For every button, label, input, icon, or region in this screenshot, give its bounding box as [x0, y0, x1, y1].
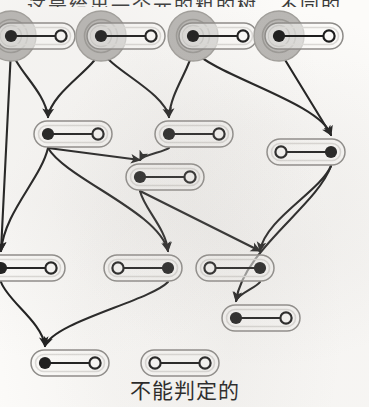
figure-canvas: 这是给出一个元的粗的树。不同的 不能判定的 [0, 0, 369, 407]
unmarked-place-icon [204, 262, 215, 273]
graph-edge [279, 50, 331, 135]
graph-node-top-node-2[interactable] [76, 11, 165, 61]
graph-edge [45, 282, 168, 346]
marked-place-icon [95, 30, 107, 42]
graph-edge [48, 148, 140, 160]
node-layer [0, 11, 345, 376]
figure-caption-top: 这是给出一个元的粗的树。不同的 [0, 0, 369, 7]
marked-place-icon [162, 262, 174, 274]
graph-node-mid-node-3[interactable] [267, 139, 345, 165]
graph-node-top-node-1[interactable] [0, 11, 75, 61]
unmarked-place-icon [213, 128, 224, 139]
marked-place-icon [134, 171, 146, 183]
marked-place-icon [42, 128, 54, 140]
graph-node-low-node-3[interactable] [196, 255, 274, 281]
unmarked-place-icon [45, 262, 56, 273]
unmarked-place-icon [55, 30, 66, 41]
graph-node-low-node-2[interactable] [104, 255, 182, 281]
unmarked-place-icon [89, 357, 100, 368]
unmarked-place-icon [275, 146, 286, 157]
unmarked-place-icon [280, 312, 291, 323]
graph-node-mid-node-1[interactable] [34, 121, 112, 147]
unmarked-place-icon-1 [199, 357, 210, 368]
edge-layer [1, 50, 331, 346]
marked-place-icon [187, 30, 199, 42]
unmarked-place-icon [184, 171, 195, 182]
marked-place-icon [39, 357, 51, 369]
graph-node-mid-node-4[interactable] [126, 164, 204, 190]
graph-node-top-node-4[interactable] [254, 11, 343, 61]
graph-edge [260, 166, 331, 251]
unmarked-place-icon [112, 262, 123, 273]
marked-place-icon [325, 146, 337, 158]
graph-node-low-node-1[interactable] [0, 255, 65, 281]
unmarked-place-icon [323, 30, 334, 41]
unmarked-place-icon [145, 30, 156, 41]
figure-caption-bottom: 不能判定的 [0, 374, 369, 404]
unmarked-place-icon-0 [149, 357, 160, 368]
marked-place-icon [163, 128, 175, 140]
graph-edge [140, 148, 169, 160]
graph-edge [140, 191, 260, 251]
graph-edge [1, 282, 45, 346]
unmarked-place-icon [92, 128, 103, 139]
graph-node-top-node-3[interactable] [168, 11, 257, 61]
marked-place-icon [273, 30, 285, 42]
graph-edge [101, 50, 169, 117]
marked-place-icon [254, 262, 266, 274]
graph-diagram [0, 0, 369, 407]
marked-place-icon [230, 312, 242, 324]
graph-node-bottom-node-1[interactable] [31, 350, 109, 376]
marked-place-icon [5, 30, 17, 42]
graph-node-bottom-node-2[interactable] [141, 350, 219, 376]
graph-node-mid-node-2[interactable] [155, 121, 233, 147]
graph-node-low-node-4[interactable] [222, 305, 300, 331]
graph-edge [1, 148, 48, 251]
unmarked-place-icon [237, 30, 248, 41]
